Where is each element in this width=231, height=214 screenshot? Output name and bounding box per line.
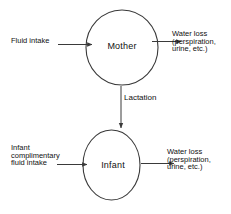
edge-label-line: urine, etc.) [167, 163, 211, 171]
edge-label-water-loss-mother: Water loss (perspiration, urine, etc.) [172, 30, 216, 53]
edge-label-lactation: Lactation [124, 94, 156, 102]
edge-label-line: Lactation [124, 94, 156, 102]
edge-label-infant-complimentary-fluid-intake: Infant complimentary fluid intake [11, 144, 60, 167]
edge-label-water-loss-infant: Water loss (perspiration, urine, etc.) [167, 148, 211, 171]
edge-label-line: Fluid intake [11, 37, 49, 45]
node-label-mother: Mother [86, 41, 158, 51]
node-label-infant: Infant [83, 160, 143, 170]
diagram-canvas: Mother Infant Fluid intake Water loss (p… [0, 0, 231, 214]
edge-label-fluid-intake: Fluid intake [11, 37, 49, 45]
edge-label-line: urine, etc.) [172, 45, 216, 53]
edge-label-line: fluid intake [11, 159, 60, 167]
